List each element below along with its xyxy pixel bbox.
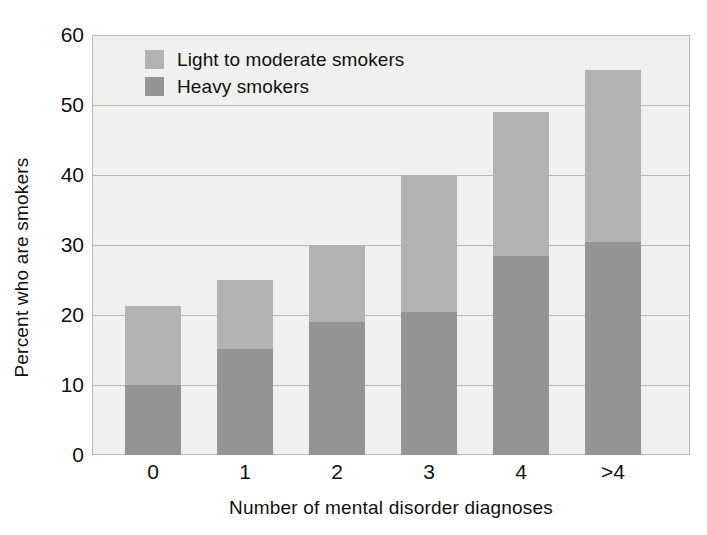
y-tick-30: 30	[36, 233, 84, 257]
bar-group-5[interactable]	[585, 70, 641, 455]
y-tick-20: 20	[36, 303, 84, 327]
y-tick-50: 50	[36, 93, 84, 117]
bar-segment-light-4[interactable]	[493, 112, 549, 256]
x-axis-tick-labels: 0 1 2 3 4 >4	[92, 460, 690, 492]
bar-segment-heavy->4[interactable]	[585, 242, 641, 456]
bar-group-1[interactable]	[217, 280, 273, 455]
x-axis-title: Number of mental disorder diagnoses	[92, 497, 690, 519]
y-axis-tick-labels: 60 50 40 30 20 10 0	[36, 0, 84, 535]
y-tick-0: 0	[36, 443, 84, 467]
x-tick-2: 2	[331, 460, 343, 484]
bar-group-2[interactable]	[309, 245, 365, 455]
bar-segment-heavy-4[interactable]	[493, 256, 549, 456]
bar-segment-heavy-3[interactable]	[401, 312, 457, 456]
bar-segment-light-1[interactable]	[217, 280, 273, 349]
y-tick-40: 40	[36, 163, 84, 187]
bar-segment-light-3[interactable]	[401, 175, 457, 312]
bar-segment-heavy-1[interactable]	[217, 349, 273, 455]
legend: Light to moderate smokers Heavy smokers	[145, 47, 404, 101]
y-tick-10: 10	[36, 373, 84, 397]
bar-segment-light->4[interactable]	[585, 70, 641, 242]
x-tick-gt4: >4	[601, 460, 625, 484]
bar-group-3[interactable]	[401, 175, 457, 455]
legend-label-light: Light to moderate smokers	[177, 49, 404, 71]
legend-label-heavy: Heavy smokers	[177, 76, 309, 98]
legend-item-heavy-smokers[interactable]: Heavy smokers	[145, 74, 404, 99]
y-tick-60: 60	[36, 23, 84, 47]
x-tick-1: 1	[239, 460, 251, 484]
bar-group-4[interactable]	[493, 112, 549, 455]
y-axis-title-text: Percent who are smokers	[11, 157, 33, 377]
x-tick-3: 3	[423, 460, 435, 484]
legend-swatch-icon-light	[145, 50, 164, 69]
bar-segment-light-2[interactable]	[309, 245, 365, 322]
bar-chart: Percent who are smokers 60 50 40 30 20 1…	[0, 0, 707, 535]
x-tick-4: 4	[515, 460, 527, 484]
legend-swatch-icon-heavy	[145, 77, 164, 96]
bar-group-0[interactable]	[125, 306, 181, 455]
legend-item-light-to-moderate-smokers[interactable]: Light to moderate smokers	[145, 47, 404, 72]
x-tick-0: 0	[147, 460, 159, 484]
bar-segment-light-0[interactable]	[125, 306, 181, 385]
bar-segment-heavy-0[interactable]	[125, 385, 181, 455]
bar-segment-heavy-2[interactable]	[309, 322, 365, 455]
